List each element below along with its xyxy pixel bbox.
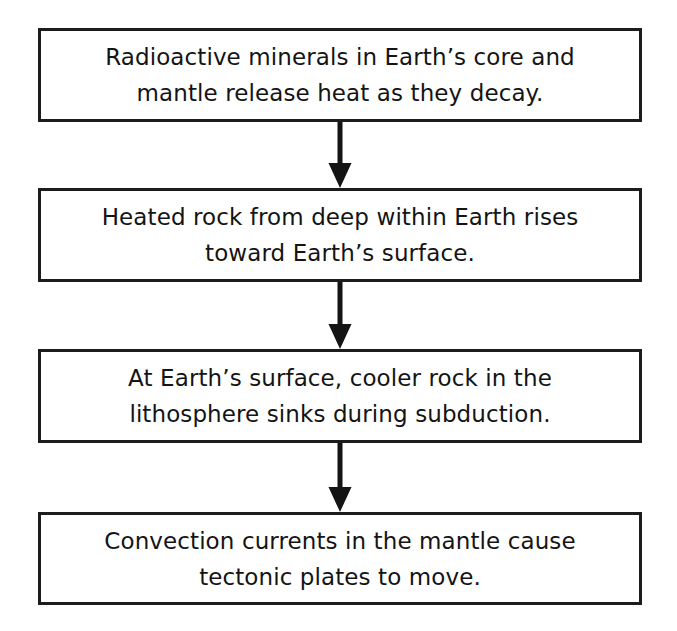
flow-step-box-1: Radioactive minerals in Earth’s core and… [38,28,642,122]
flow-step-box-2: Heated rock from deep within Earth rises… [38,188,642,282]
down-arrow-icon [328,122,352,188]
down-arrow-icon [328,282,352,349]
flow-step-text-3: At Earth’s surface, cooler rock in the l… [41,360,639,432]
down-arrow-icon [328,443,352,512]
flow-step-box-4: Convection currents in the mantle cause … [38,512,642,605]
flow-step-text-1: Radioactive minerals in Earth’s core and… [41,39,639,111]
flow-step-text-4: Convection currents in the mantle cause … [41,523,639,595]
flow-step-box-3: At Earth’s surface, cooler rock in the l… [38,349,642,443]
flow-step-text-2: Heated rock from deep within Earth rises… [41,199,639,271]
flowchart-diagram: Radioactive minerals in Earth’s core and… [0,0,677,631]
